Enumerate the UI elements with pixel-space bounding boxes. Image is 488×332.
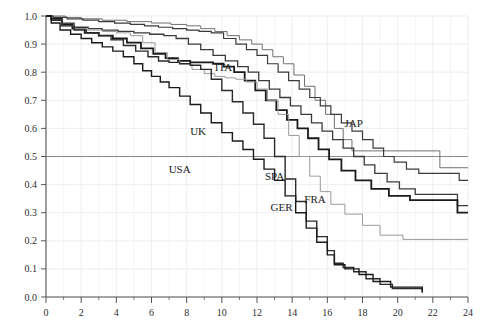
x-tick-label: 6	[149, 307, 154, 318]
series-label-jap: JAP	[345, 117, 363, 129]
y-tick-label: 0.8	[25, 67, 38, 78]
y-tick-label: 0.0	[25, 292, 38, 303]
series-label-ger: GER	[271, 201, 294, 213]
x-tick-label: 22	[428, 307, 438, 318]
x-tick-label: 14	[287, 307, 297, 318]
y-tick-label: 0.4	[25, 179, 38, 190]
series-label-spa: SPA	[265, 170, 284, 182]
series-label-fra: FRA	[304, 193, 325, 205]
y-tick-label: 0.7	[25, 95, 38, 106]
x-tick-label: 4	[114, 307, 119, 318]
x-tick-label: 12	[252, 307, 262, 318]
y-tick-label: 0.5	[25, 151, 38, 162]
series-label-usa: USA	[169, 163, 191, 175]
x-tick-label: 20	[393, 307, 403, 318]
x-tick-label: 0	[44, 307, 49, 318]
series-label-uk: UK	[190, 125, 206, 137]
survival-curve-chart: 024681012141618202224 0.00.10.20.30.40.5…	[0, 0, 488, 332]
series-label-ita: ITA	[215, 61, 233, 73]
x-tick-label: 24	[463, 307, 473, 318]
y-tick-label: 0.2	[25, 235, 38, 246]
y-tick-label: 0.9	[25, 39, 38, 50]
x-tick-label: 8	[184, 307, 189, 318]
x-tick-label: 10	[217, 307, 227, 318]
y-tick-label: 1.0	[25, 11, 38, 22]
x-tick-label: 2	[79, 307, 84, 318]
y-tick-label: 0.3	[25, 207, 38, 218]
y-tick-label: 0.1	[25, 263, 38, 274]
x-tick-label: 16	[322, 307, 332, 318]
y-tick-label: 0.6	[25, 123, 38, 134]
chart-root: 024681012141618202224 0.00.10.20.30.40.5…	[0, 0, 488, 332]
x-tick-label: 18	[358, 307, 368, 318]
chart-background	[0, 0, 488, 332]
